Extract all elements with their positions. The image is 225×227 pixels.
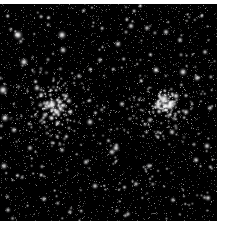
border-bottom: [0, 221, 225, 227]
star-field-canvas: [0, 4, 217, 221]
border-top: [0, 0, 225, 4]
astronomy-image-viewport: [0, 0, 225, 227]
border-right: [217, 0, 225, 227]
star-field: [0, 4, 217, 221]
